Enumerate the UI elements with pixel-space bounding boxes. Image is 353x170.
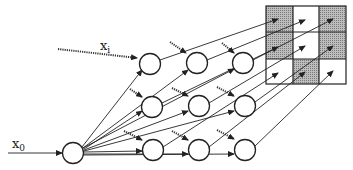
output-grid: [266, 6, 346, 84]
grid-cell-shaded: [266, 32, 293, 59]
node-r2-c2: [189, 96, 210, 117]
node-r3-c3: [235, 140, 256, 161]
node-r2-c1: [142, 97, 163, 118]
node-r1-c1: [140, 54, 161, 75]
node-r1-c3: [233, 53, 254, 74]
xi-label: xi: [100, 38, 110, 55]
grid-cell: [266, 59, 293, 84]
xi-input-arrow: [58, 49, 137, 58]
grid-cell-shaded: [319, 32, 346, 59]
network-diagram: x0 xi: [0, 0, 353, 170]
grid-cell: [293, 32, 319, 59]
node-r3-c1: [143, 140, 164, 161]
node-r1-c2: [187, 53, 208, 74]
x0-label: x0: [12, 136, 25, 153]
input-node: [63, 143, 84, 164]
node-r3-c2: [189, 140, 210, 161]
grid-cell-shaded: [266, 6, 293, 32]
node-r2-c3: [235, 96, 256, 117]
